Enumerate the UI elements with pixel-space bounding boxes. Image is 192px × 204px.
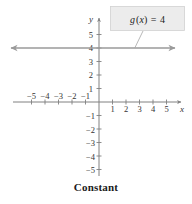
y-tick-label--4: −4: [86, 152, 96, 162]
callout-leader-line: [135, 31, 143, 48]
x-tick-label-2: 2: [124, 104, 128, 114]
y-tick-label-5: 5: [89, 30, 93, 40]
constant-function-figure: −5 −4 −3 −2 −1 1 2 3 4 5 5 4 3 2 1 −1 −2…: [0, 0, 192, 204]
function-name: g: [130, 14, 135, 25]
x-axis-label: x: [179, 104, 184, 114]
coordinate-plane: −5 −4 −3 −2 −1 1 2 3 4 5 5 4 3 2 1 −1 −2…: [0, 0, 192, 204]
y-axis-label: y: [88, 14, 93, 24]
y-tick-label-2: 2: [89, 70, 93, 80]
y-tick-label--3: −3: [86, 138, 95, 148]
x-tick-label-3: 3: [137, 104, 141, 114]
y-tick-label-1: 1: [89, 84, 93, 94]
x-tick-label-1: 1: [110, 104, 114, 114]
x-tick-label-4: 4: [151, 104, 156, 114]
x-tick-label--5: −5: [27, 91, 36, 101]
close-paren: ): [144, 14, 147, 26]
function-label-box: [111, 7, 185, 31]
figure-caption: Constant: [0, 181, 192, 193]
y-tick-label--2: −2: [86, 125, 95, 135]
function-value: 4: [160, 14, 165, 25]
y-tick-label--1: −1: [86, 111, 95, 121]
equals-sign: =: [151, 14, 157, 25]
x-tick-label--4: −4: [40, 91, 50, 101]
x-tick-label--2: −2: [67, 91, 76, 101]
x-tick-label-5: 5: [164, 104, 168, 114]
x-tick-label--3: −3: [54, 91, 63, 101]
y-tick-label--5: −5: [86, 165, 95, 175]
y-tick-label-3: 3: [89, 57, 93, 67]
